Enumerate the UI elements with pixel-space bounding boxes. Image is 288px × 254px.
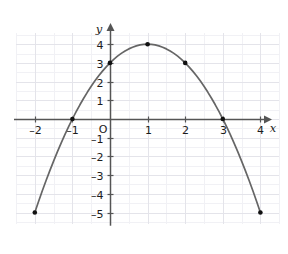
data-point xyxy=(258,210,263,215)
y-tick-label: 1 xyxy=(97,95,104,108)
x-tick-label: 1 xyxy=(145,124,152,137)
x-tick-label: 2 xyxy=(182,124,189,137)
data-point xyxy=(108,61,113,66)
y-tick-label: –4 xyxy=(91,189,104,202)
y-axis-label: y xyxy=(95,22,103,36)
x-tick-label: 4 xyxy=(257,124,264,137)
y-tick-label: –3 xyxy=(91,170,104,183)
x-tick-label: –1 xyxy=(66,124,79,137)
x-tick-label: –2 xyxy=(29,124,42,137)
graph-figure: –2–112344321–1–2–3–4–5 y x O xyxy=(0,0,288,254)
y-tick-label: –5 xyxy=(91,208,104,221)
y-tick-label: 3 xyxy=(97,58,104,71)
data-point xyxy=(145,42,150,47)
parabola-chart: –2–112344321–1–2–3–4–5 y x O xyxy=(0,0,288,254)
chart-background xyxy=(0,0,288,254)
x-axis-label: x xyxy=(270,121,277,135)
data-point xyxy=(70,117,75,122)
data-point xyxy=(221,117,226,122)
y-tick-label: –2 xyxy=(91,151,104,164)
data-point xyxy=(33,210,38,215)
data-point xyxy=(183,61,188,66)
y-tick-label: 4 xyxy=(97,39,104,52)
origin-label: O xyxy=(99,123,108,136)
